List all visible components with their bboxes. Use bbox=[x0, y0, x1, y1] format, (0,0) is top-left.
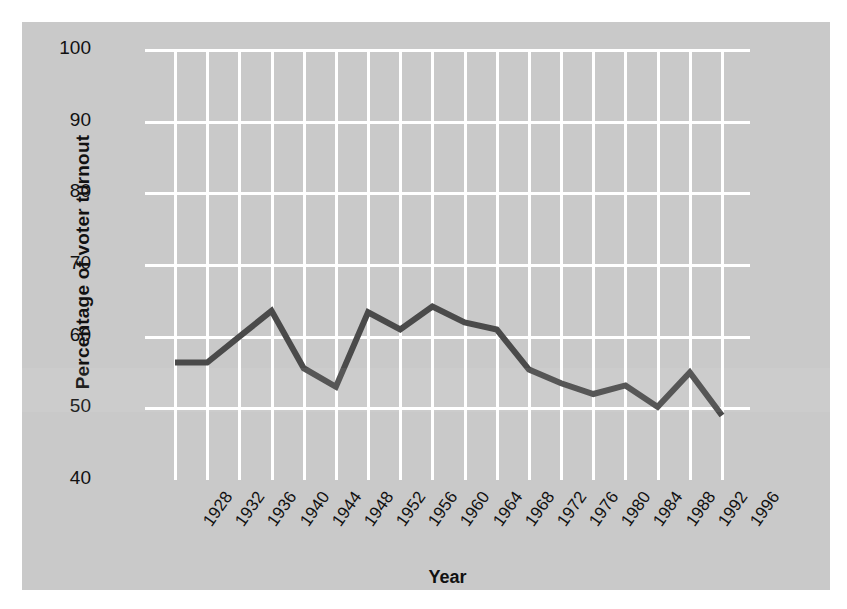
series-line-voter-turnout bbox=[175, 307, 722, 416]
y-tick-label: 50 bbox=[31, 395, 91, 417]
y-tick-label: 40 bbox=[31, 467, 91, 489]
x-axis-title: Year bbox=[145, 567, 750, 588]
y-tick-label: 70 bbox=[31, 252, 91, 274]
y-tick-label: 80 bbox=[31, 180, 91, 202]
y-tick-label: 60 bbox=[31, 324, 91, 346]
line-series bbox=[145, 50, 750, 480]
chart-figure: Percentage of voter turnout Year 4050607… bbox=[0, 0, 847, 609]
y-tick-label: 90 bbox=[31, 109, 91, 131]
y-tick-label: 100 bbox=[31, 37, 91, 59]
plot-area bbox=[145, 50, 750, 480]
